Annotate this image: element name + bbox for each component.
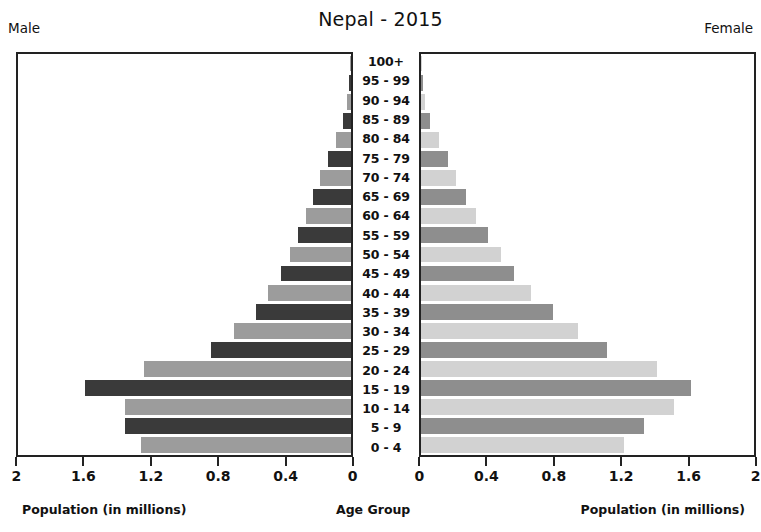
bar bbox=[421, 247, 501, 263]
bar bbox=[421, 227, 488, 243]
female-x-axis: 00.40.81.21.62 bbox=[419, 457, 756, 487]
male-axis-title: Population (in millions) bbox=[22, 502, 186, 517]
age-group-label: 65 - 69 bbox=[353, 187, 419, 206]
age-group-label: 5 - 9 bbox=[353, 418, 419, 437]
bar bbox=[421, 399, 674, 415]
bar bbox=[421, 285, 531, 301]
bar-row bbox=[421, 398, 754, 417]
axis-tick-label: 0.4 bbox=[273, 468, 298, 484]
bar bbox=[421, 56, 422, 72]
bar-row bbox=[421, 207, 754, 226]
axis-tick-label: 0.4 bbox=[474, 468, 499, 484]
age-group-label: 15 - 19 bbox=[353, 380, 419, 399]
bar bbox=[421, 437, 624, 453]
bar-row bbox=[18, 54, 351, 73]
bar bbox=[421, 380, 691, 396]
bar bbox=[421, 113, 430, 129]
bar bbox=[421, 75, 423, 91]
bar-row bbox=[421, 149, 754, 168]
age-group-label: 20 - 24 bbox=[353, 361, 419, 380]
axis-tick-label: 1.2 bbox=[138, 468, 163, 484]
bar bbox=[141, 437, 351, 453]
bar bbox=[421, 361, 657, 377]
bar-row bbox=[421, 436, 754, 455]
male-caption: Male bbox=[8, 20, 40, 36]
age-group-label: 85 - 89 bbox=[353, 110, 419, 129]
bar bbox=[421, 170, 456, 186]
age-group-label: 60 - 64 bbox=[353, 206, 419, 225]
age-group-label: 75 - 79 bbox=[353, 148, 419, 167]
bar bbox=[306, 208, 351, 224]
bar-row bbox=[421, 111, 754, 130]
bar-row bbox=[18, 111, 351, 130]
bar-row bbox=[421, 130, 754, 149]
bar-row bbox=[421, 73, 754, 92]
bar-row bbox=[421, 417, 754, 436]
axis-tick bbox=[150, 457, 152, 466]
axis-tick-label: 2 bbox=[751, 468, 761, 484]
chart-title: Nepal - 2015 bbox=[0, 8, 761, 30]
bar-row bbox=[421, 188, 754, 207]
bar bbox=[256, 304, 351, 320]
bar-row bbox=[421, 283, 754, 302]
bar bbox=[336, 132, 351, 148]
axis-tick bbox=[755, 457, 757, 466]
bar-row bbox=[421, 92, 754, 111]
bar-row bbox=[18, 321, 351, 340]
age-group-label: 50 - 54 bbox=[353, 245, 419, 264]
bar-row bbox=[421, 226, 754, 245]
male-bar-rows bbox=[18, 54, 351, 455]
bar bbox=[421, 342, 607, 358]
female-bar-rows bbox=[421, 54, 754, 455]
bar bbox=[328, 151, 351, 167]
axis-tick bbox=[15, 457, 17, 466]
female-plot-panel bbox=[419, 52, 756, 457]
axis-tick bbox=[688, 457, 690, 466]
population-pyramid-figure: Nepal - 2015 Male Female 100+95 - 9990 -… bbox=[0, 0, 761, 532]
axis-tick-label: 0 bbox=[415, 468, 425, 484]
age-group-label: 55 - 59 bbox=[353, 226, 419, 245]
bar bbox=[343, 113, 351, 129]
bar bbox=[421, 266, 514, 282]
bar-row bbox=[18, 360, 351, 379]
bar bbox=[144, 361, 351, 377]
male-plot-panel bbox=[16, 52, 353, 457]
bar bbox=[421, 418, 644, 434]
bar bbox=[85, 380, 351, 396]
bar bbox=[290, 247, 351, 263]
age-group-label: 90 - 94 bbox=[353, 91, 419, 110]
bar-row bbox=[18, 436, 351, 455]
bar-row bbox=[421, 264, 754, 283]
bar bbox=[350, 56, 351, 72]
bar bbox=[421, 132, 439, 148]
bar bbox=[347, 94, 351, 110]
age-group-label: 40 - 44 bbox=[353, 283, 419, 302]
bar bbox=[298, 227, 351, 243]
axis-tick bbox=[418, 457, 420, 466]
axis-tick bbox=[217, 457, 219, 466]
age-group-label: 45 - 49 bbox=[353, 264, 419, 283]
age-group-label: 100+ bbox=[353, 52, 419, 71]
axis-tick-label: 2 bbox=[12, 468, 22, 484]
axis-tick-label: 1.2 bbox=[609, 468, 634, 484]
age-group-label: 0 - 4 bbox=[353, 438, 419, 457]
axis-tick bbox=[352, 457, 354, 466]
age-group-label: 80 - 84 bbox=[353, 129, 419, 148]
bar bbox=[421, 151, 448, 167]
bar bbox=[125, 418, 351, 434]
bar-row bbox=[18, 73, 351, 92]
bar-row bbox=[421, 340, 754, 359]
bar-row bbox=[18, 149, 351, 168]
age-group-label: 30 - 34 bbox=[353, 322, 419, 341]
bar-row bbox=[18, 340, 351, 359]
axis-tick bbox=[285, 457, 287, 466]
bar bbox=[349, 75, 351, 91]
bar-row bbox=[18, 92, 351, 111]
bar bbox=[421, 189, 466, 205]
bar-row bbox=[18, 130, 351, 149]
bar-row bbox=[18, 417, 351, 436]
bar bbox=[268, 285, 351, 301]
bar bbox=[421, 208, 476, 224]
bar-row bbox=[421, 379, 754, 398]
axis-tick bbox=[82, 457, 84, 466]
